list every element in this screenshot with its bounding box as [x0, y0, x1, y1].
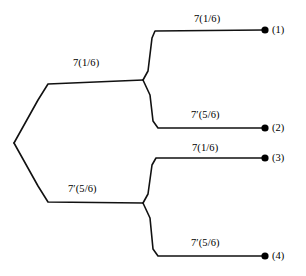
- branch-label-upper-to-node-2: 7′(5/6): [191, 110, 220, 121]
- terminal-node-label-4: (4): [272, 251, 284, 262]
- node-dot-3: [261, 154, 268, 161]
- node-dot-1: [261, 26, 268, 33]
- branch-line-lower-to-node-3: [143, 158, 263, 203]
- terminal-node-label-1: (1): [272, 25, 284, 36]
- terminal-node-label-3: (3): [272, 153, 284, 164]
- node-dot-4: [261, 252, 268, 259]
- branch-label-lower-to-node-4: 7′(5/6): [191, 238, 220, 249]
- branch-line-upper-to-node-2: [143, 80, 263, 128]
- terminal-node-dots: [261, 26, 268, 259]
- node-dot-2: [261, 124, 268, 131]
- branch-line-root-upper: [14, 80, 143, 143]
- branch-line-upper-to-node-1: [143, 30, 263, 80]
- branch-label-upper-to-node-1: 7(1/6): [194, 14, 220, 25]
- tree-branch-lines: [0, 0, 306, 276]
- branch-label-root-upper: 7(1/6): [73, 58, 99, 69]
- terminal-node-label-2: (2): [272, 123, 284, 134]
- branch-label-root-lower: 7′(5/6): [68, 184, 97, 195]
- tree-diagram-canvas: 7(1/6) 7′(5/6) 7(1/6) 7′(5/6) 7(1/6) 7′(…: [0, 0, 306, 276]
- branch-label-lower-to-node-3: 7(1/6): [192, 143, 218, 154]
